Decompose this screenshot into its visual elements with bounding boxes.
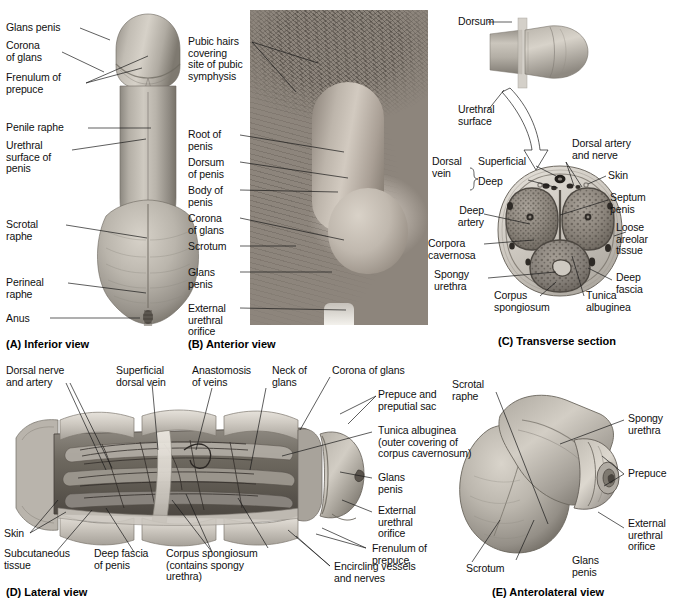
label-root-of-penis-b: Root of penis bbox=[188, 129, 221, 152]
label-urethral-surface-c: Urethral surface bbox=[458, 104, 495, 127]
label-glans-penis-d: Glans penis bbox=[378, 472, 405, 495]
panel-d-illustration bbox=[14, 390, 366, 558]
panel-c-orientation-illustration bbox=[488, 12, 600, 94]
anatomy-figure: Glans penis Corona of glans Frenulum of … bbox=[0, 0, 678, 609]
label-dorsum-c: Dorsum bbox=[458, 16, 494, 28]
caption-panel-a: (A) Inferior view bbox=[6, 338, 89, 350]
label-superficial-dorsal-vein-d: Superficial dorsal vein bbox=[116, 365, 166, 388]
label-spongy-urethra-e: Spongy urethra bbox=[628, 413, 663, 436]
label-external-orifice-e: External urethral orifice bbox=[628, 518, 666, 553]
label-skin-c: Skin bbox=[608, 170, 628, 182]
label-neck-of-glans-d: Neck of glans bbox=[272, 365, 307, 388]
label-frenulum-of-prepuce-a: Frenulum of prepuce bbox=[6, 72, 61, 95]
label-scrotum-b: Scrotum bbox=[188, 241, 226, 253]
label-encircling-vessels-d: Encircling vessels and nerves bbox=[334, 561, 416, 584]
label-glans-penis-e: Glans penis bbox=[572, 555, 599, 578]
label-external-orifice-d: External urethral orifice bbox=[378, 505, 416, 540]
label-dorsal-nerve-artery-d: Dorsal nerve and artery bbox=[6, 365, 64, 388]
label-deep-c: Deep bbox=[478, 176, 503, 188]
label-corpora-cavernosa-c: Corpora cavernosa bbox=[428, 238, 476, 261]
label-loose-areolar-c: Loose areolar tissue bbox=[616, 222, 648, 257]
label-corpus-spongiosum-d: Corpus spongiosum (contains spongy ureth… bbox=[166, 548, 258, 583]
panel-e-illustration bbox=[448, 378, 628, 568]
label-dorsal-vein-c: Dorsal vein bbox=[432, 156, 462, 179]
label-glans-penis-b: Glans penis bbox=[188, 267, 215, 290]
label-corona-of-glans-b: Corona of glans bbox=[188, 213, 224, 236]
label-corona-of-glans-d: Corona of glans bbox=[332, 365, 405, 377]
label-anus-a: Anus bbox=[6, 313, 30, 325]
label-dorsal-artery-nerve-c: Dorsal artery and nerve bbox=[572, 138, 631, 161]
label-tunica-albuginea-c: Tunica albuginea bbox=[586, 290, 631, 313]
caption-panel-d: (D) Lateral view bbox=[6, 586, 87, 598]
label-spongy-urethra-c: Spongy urethra bbox=[434, 269, 469, 292]
label-dorsum-of-penis-b: Dorsum of penis bbox=[188, 157, 224, 180]
label-subcutaneous-tissue-d: Subcutaneous tissue bbox=[4, 548, 70, 571]
label-deep-artery-c: Deep artery bbox=[434, 205, 484, 228]
label-body-of-penis-b: Body of penis bbox=[188, 185, 223, 208]
label-penile-raphe-a: Penile raphe bbox=[6, 122, 64, 134]
label-urethral-surface-a: Urethral surface of penis bbox=[6, 140, 51, 175]
label-glans-penis-a: Glans penis bbox=[6, 22, 60, 34]
label-pubic-hairs-b: Pubic hairs covering site of pubic symph… bbox=[188, 36, 243, 82]
label-superficial-c: Superficial bbox=[478, 156, 526, 168]
label-perineal-raphe-a: Perineal raphe bbox=[6, 277, 44, 300]
label-scrotal-raphe-a: Scrotal raphe bbox=[6, 219, 38, 242]
label-scrotum-e: Scrotum bbox=[466, 563, 504, 575]
label-prepuce-e: Prepuce bbox=[628, 468, 666, 480]
scrotum-region bbox=[328, 188, 408, 274]
label-scrotal-raphe-e: Scrotal raphe bbox=[452, 379, 484, 402]
label-tunica-albuginea-d: Tunica albuginea (outer covering of corp… bbox=[378, 425, 471, 460]
label-prepuce-preputial-sac-d: Prepuce and preputial sac bbox=[378, 389, 436, 412]
caption-panel-c: (C) Transverse section bbox=[498, 335, 616, 347]
photo-bottom-highlight bbox=[324, 303, 354, 325]
label-deep-fascia-of-penis-d: Deep fascia of penis bbox=[94, 548, 148, 571]
panel-b-photograph bbox=[250, 10, 428, 325]
label-septum-penis-c: Septum penis bbox=[610, 192, 646, 215]
label-external-orifice-b: External urethral orifice bbox=[188, 303, 226, 338]
label-corpus-spongiosum-c: Corpus spongiosum bbox=[494, 290, 550, 313]
label-corona-of-glans-a: Corona of glans bbox=[6, 40, 42, 63]
panel-c-transverse-section bbox=[492, 162, 628, 302]
label-anastomosis-of-veins-d: Anastomosis of veins bbox=[192, 365, 251, 388]
label-skin-d: Skin bbox=[4, 528, 24, 540]
caption-panel-b: (B) Anterior view bbox=[188, 338, 276, 350]
caption-panel-e: (E) Anterolateral view bbox=[492, 586, 604, 598]
